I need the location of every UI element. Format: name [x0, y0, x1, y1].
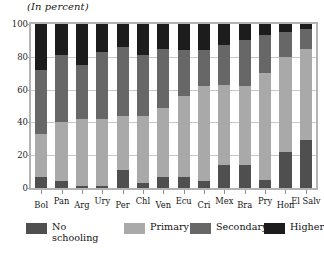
chart-title: (In percent) — [27, 1, 89, 12]
bar-segment-no-schooling — [218, 165, 230, 188]
legend-swatch — [264, 223, 285, 234]
legend-swatch — [26, 223, 47, 234]
bar-segment-secondary — [117, 47, 129, 116]
bar-el-salv[interactable] — [300, 24, 312, 188]
x-tick-label-bra: Bra — [237, 200, 252, 210]
bar-segment-primary — [35, 134, 47, 177]
x-tick-mark — [204, 190, 205, 194]
legend-label: No schooling — [52, 222, 98, 243]
bar-segment-higher — [239, 24, 251, 40]
bar-segment-primary — [137, 116, 149, 183]
y-tick-label-100: 100 — [4, 20, 28, 29]
bar-pan[interactable] — [55, 24, 67, 188]
bar-segment-higher — [218, 24, 230, 45]
bar-chl[interactable] — [137, 24, 149, 188]
x-tick-label-cri: Cri — [198, 200, 211, 210]
bar-segment-primary — [178, 96, 190, 176]
chart-root: (In percent) 020406080100 BolPanArgUryPe… — [0, 0, 324, 257]
bar-segment-secondary — [55, 55, 67, 122]
x-tick-mark — [143, 190, 144, 194]
bar-pry[interactable] — [259, 24, 271, 188]
legend-swatch — [124, 223, 145, 234]
bar-arg[interactable] — [76, 24, 88, 188]
bar-segment-secondary — [198, 50, 210, 86]
bar-segment-secondary — [76, 65, 88, 119]
bar-segment-primary — [198, 86, 210, 181]
bar-segment-higher — [178, 24, 190, 50]
bar-segment-no-schooling — [55, 181, 67, 188]
x-tick-label-per: Per — [116, 200, 130, 210]
x-tick-mark — [265, 190, 266, 194]
x-tick-mark — [184, 190, 185, 194]
bar-bol[interactable] — [35, 24, 47, 188]
y-tick-label-20: 20 — [4, 151, 28, 160]
x-tick-label-bol: Bol — [34, 200, 48, 210]
bar-segment-primary — [55, 122, 67, 181]
gridline — [31, 57, 316, 58]
x-tick-mark — [123, 190, 124, 194]
bar-segment-higher — [157, 24, 169, 49]
bar-segment-secondary — [35, 70, 47, 134]
legend-label: Primary — [150, 222, 189, 233]
gridline — [31, 155, 316, 156]
bar-ecu[interactable] — [178, 24, 190, 188]
bar-segment-no-schooling — [35, 177, 47, 188]
y-tick-label-40: 40 — [4, 118, 28, 127]
bar-segment-secondary — [96, 52, 108, 119]
bar-cri[interactable] — [198, 24, 210, 188]
bar-segment-no-schooling — [137, 183, 149, 188]
bar-segment-secondary — [239, 40, 251, 86]
x-tick-label-el-salv: El Salv — [291, 196, 320, 206]
chart-legend: No schoolingPrimarySecondaryHigher — [0, 222, 324, 257]
bar-segment-primary — [117, 116, 129, 170]
bar-segment-higher — [76, 24, 88, 65]
bar-segment-no-schooling — [76, 186, 88, 188]
x-tick-mark — [62, 190, 63, 194]
bar-segment-no-schooling — [279, 152, 291, 188]
x-tick-mark — [224, 190, 225, 194]
bar-segment-secondary — [137, 55, 149, 116]
bar-segment-primary — [76, 119, 88, 186]
bar-ven[interactable] — [157, 24, 169, 188]
bar-segment-secondary — [157, 49, 169, 108]
bar-segment-primary — [218, 85, 230, 165]
legend-item-no-schooling[interactable]: No schooling — [26, 222, 98, 243]
bar-segment-secondary — [259, 35, 271, 73]
bar-segment-higher — [55, 24, 67, 55]
bar-segment-primary — [279, 57, 291, 152]
bar-segment-no-schooling — [178, 177, 190, 188]
x-tick-label-pry: Pry — [258, 196, 272, 206]
bar-segment-primary — [259, 73, 271, 180]
gridline — [31, 122, 316, 123]
x-tick-label-ury: Ury — [94, 196, 110, 206]
bar-segment-higher — [96, 24, 108, 52]
bar-segment-higher — [198, 24, 210, 50]
bar-segment-higher — [300, 24, 312, 29]
x-tick-mark — [41, 190, 42, 194]
bar-hon[interactable] — [279, 24, 291, 188]
legend-label: Secondary — [216, 222, 267, 233]
y-tick-label-0: 0 — [4, 184, 28, 193]
x-tick-mark — [245, 190, 246, 194]
bar-segment-no-schooling — [300, 140, 312, 188]
bar-segment-primary — [239, 86, 251, 165]
bar-ury[interactable] — [96, 24, 108, 188]
x-tick-label-pan: Pan — [54, 196, 70, 206]
bar-segment-primary — [96, 119, 108, 186]
legend-item-primary[interactable]: Primary — [124, 222, 189, 234]
x-tick-label-arg: Arg — [74, 200, 89, 210]
bar-segment-no-schooling — [239, 165, 251, 188]
legend-item-higher[interactable]: Higher — [264, 222, 324, 234]
bar-segment-no-schooling — [157, 177, 169, 188]
legend-swatch — [190, 223, 211, 234]
bar-per[interactable] — [117, 24, 129, 188]
x-tick-mark — [82, 190, 83, 194]
bar-bra[interactable] — [239, 24, 251, 188]
bar-segment-higher — [279, 24, 291, 32]
bar-segment-higher — [35, 24, 47, 70]
x-tick-label-chl: Chl — [136, 196, 150, 206]
bar-mex[interactable] — [218, 24, 230, 188]
bar-segment-secondary — [300, 29, 312, 49]
legend-item-secondary[interactable]: Secondary — [190, 222, 267, 234]
x-tick-mark — [306, 190, 307, 194]
